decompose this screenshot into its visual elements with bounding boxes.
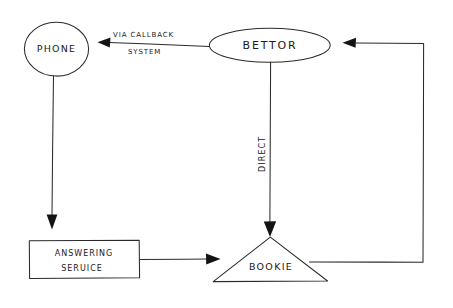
edge-bettor-to-bookie[interactable]: DIRECT (258, 62, 277, 237)
node-bettor-label: BETTOR (243, 39, 298, 52)
edge-bettor-to-phone[interactable]: VIA CALLBACK SYSTEM (98, 31, 210, 56)
node-bettor[interactable]: BETTOR (209, 28, 330, 62)
node-answering-service-label-line2: SERUICE (61, 264, 103, 273)
edge-answering-service-to-bookie-arrowhead (206, 254, 221, 265)
edge-phone-to-answering-service-line (52, 76, 54, 215)
edge-phone-to-answering-service-arrowhead (47, 214, 58, 229)
node-bookie-label: BOOKIE (249, 261, 293, 272)
edge-phone-to-answering-service[interactable] (47, 76, 58, 230)
node-answering-service-label-line1: ANSWERING (55, 249, 114, 258)
diagram-svg: PHONE BETTOR ANSWERING SERUICE BOOKIE VI… (0, 0, 453, 308)
node-phone[interactable]: PHONE (24, 22, 88, 76)
answering-service-box-shape (29, 240, 139, 278)
edge-bookie-to-bettor-arrowhead (343, 38, 357, 48)
node-answering-service[interactable]: ANSWERING SERUICE (29, 240, 139, 278)
diagram-canvas: PHONE BETTOR ANSWERING SERUICE BOOKIE VI… (0, 0, 453, 308)
edge-bookie-to-bettor[interactable] (310, 38, 424, 262)
edge-bookie-to-bettor-line (310, 43, 424, 262)
edge-bettor-to-phone-label-line1: VIA CALLBACK (113, 31, 174, 39)
node-phone-label: PHONE (37, 43, 76, 54)
edge-bettor-to-phone-label-line2: SYSTEM (128, 48, 161, 56)
node-bookie[interactable]: BOOKIE (213, 237, 327, 281)
edge-bettor-to-bookie-arrowhead (264, 221, 276, 237)
edge-bettor-to-bookie-line (270, 62, 271, 222)
edge-answering-service-to-bookie[interactable] (140, 254, 221, 265)
bookie-triangle-shape (213, 237, 327, 281)
edge-bettor-to-phone-arrowhead (98, 38, 111, 48)
edge-bettor-to-bookie-label: DIRECT (258, 136, 267, 172)
edge-bettor-to-phone-line (109, 43, 209, 47)
